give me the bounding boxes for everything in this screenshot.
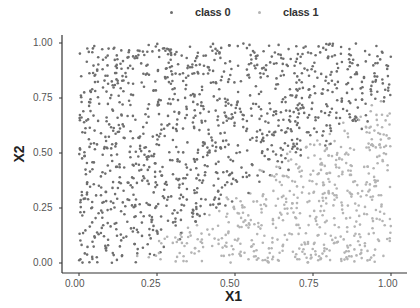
data-point	[143, 146, 146, 149]
data-point	[189, 234, 192, 237]
data-point	[167, 196, 170, 199]
data-point	[210, 82, 213, 85]
data-point	[248, 174, 251, 177]
data-point	[117, 187, 120, 190]
data-point	[233, 81, 236, 84]
data-point	[260, 211, 263, 214]
data-point	[320, 110, 323, 113]
data-point	[117, 95, 120, 98]
data-point	[214, 109, 217, 112]
data-point	[372, 195, 375, 198]
data-point	[96, 256, 99, 259]
data-point	[348, 48, 351, 51]
data-point	[375, 209, 378, 212]
data-point	[266, 134, 269, 137]
data-point	[182, 72, 185, 75]
data-point	[354, 115, 357, 118]
data-point	[235, 152, 238, 155]
data-point	[313, 210, 316, 213]
data-point	[380, 100, 383, 103]
data-point	[381, 52, 384, 55]
data-point	[325, 255, 328, 258]
data-point	[299, 212, 302, 215]
data-point	[309, 257, 312, 260]
data-point	[187, 227, 190, 230]
data-point	[246, 149, 249, 152]
data-point	[110, 200, 113, 203]
data-point	[267, 256, 270, 259]
data-point	[254, 67, 257, 70]
data-point	[97, 56, 100, 59]
data-point	[128, 199, 131, 202]
data-point	[280, 111, 283, 114]
data-point	[110, 154, 113, 157]
data-point	[236, 104, 239, 107]
data-point	[107, 47, 110, 50]
data-point	[187, 236, 190, 239]
data-point	[282, 58, 285, 61]
data-point	[221, 246, 224, 249]
data-point	[244, 219, 247, 222]
data-point	[250, 58, 253, 61]
data-point	[282, 219, 285, 222]
data-point	[329, 124, 332, 127]
data-point	[359, 253, 362, 256]
data-point	[186, 141, 189, 144]
data-point	[162, 195, 165, 198]
data-point	[348, 191, 351, 194]
data-point	[195, 64, 198, 67]
data-point	[129, 184, 132, 187]
data-point	[79, 201, 82, 204]
data-point	[305, 232, 308, 235]
data-point	[311, 65, 314, 68]
data-point	[237, 237, 240, 240]
data-point	[79, 258, 82, 261]
data-point	[171, 212, 174, 215]
data-point	[297, 167, 300, 170]
data-point	[80, 94, 83, 97]
data-point	[182, 80, 185, 83]
data-point	[141, 221, 144, 224]
data-point	[318, 255, 321, 258]
data-point	[285, 198, 288, 201]
data-point	[129, 130, 132, 133]
data-point	[257, 226, 260, 229]
data-point	[275, 173, 278, 176]
data-point	[159, 170, 162, 173]
data-point	[230, 68, 233, 71]
data-point	[118, 166, 121, 169]
data-point	[137, 231, 140, 234]
data-point	[346, 189, 349, 192]
data-point	[111, 108, 114, 111]
data-point	[122, 125, 125, 128]
data-point	[127, 51, 130, 54]
data-point	[93, 45, 96, 48]
data-point	[146, 180, 149, 183]
data-point	[168, 123, 171, 126]
data-point	[212, 70, 215, 73]
data-point	[214, 150, 217, 153]
data-point	[279, 54, 282, 57]
data-point	[301, 170, 304, 173]
data-point	[116, 235, 119, 238]
data-point	[246, 47, 249, 50]
data-point	[191, 72, 194, 75]
data-point	[105, 90, 108, 93]
data-point	[208, 69, 211, 72]
data-point	[86, 60, 89, 63]
data-point	[387, 137, 390, 140]
data-point	[353, 235, 356, 238]
data-point	[242, 176, 245, 179]
data-point	[231, 113, 234, 116]
data-point	[131, 163, 134, 166]
data-point	[158, 240, 161, 243]
data-point	[301, 53, 304, 56]
data-point	[139, 147, 142, 150]
data-point	[349, 164, 352, 167]
data-point	[295, 163, 298, 166]
data-point	[279, 181, 282, 184]
data-point	[132, 137, 135, 140]
data-point	[289, 94, 292, 97]
data-point	[105, 140, 108, 143]
data-point	[204, 164, 207, 167]
